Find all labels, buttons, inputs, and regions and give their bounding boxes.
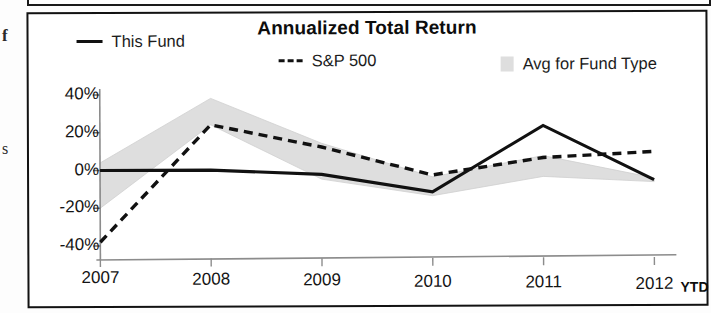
edge-text-fragment-1: f [2, 26, 8, 46]
adjacent-panel-fragment [27, 0, 711, 6]
x-tick-label: 2012 [636, 274, 674, 294]
screenshot-root: f s Annualized Total Return This Fund S&… [0, 0, 711, 313]
x-tick-label: 2009 [303, 270, 341, 290]
ytd-label: YTD [680, 279, 708, 295]
x-tick-label: 2008 [192, 269, 230, 289]
plot-area: 40%20%0%-20%-40% 20072008200920102011201… [28, 12, 710, 311]
chart-panel: Annualized Total Return This Fund S&P 50… [26, 10, 708, 309]
x-axis-labels: 200720082009201020112012YTD [28, 12, 710, 311]
x-tick-label: 2011 [525, 273, 562, 293]
x-tick-label: 2007 [82, 268, 120, 288]
x-tick-label: 2010 [414, 271, 452, 291]
edge-text-fragment-2: s [2, 140, 8, 158]
